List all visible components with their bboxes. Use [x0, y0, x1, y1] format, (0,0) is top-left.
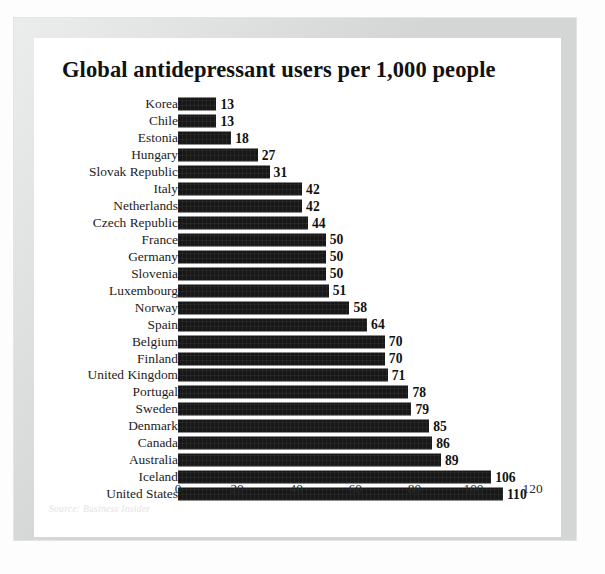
- category-label: Denmark: [128, 420, 178, 433]
- category-label: Korea: [145, 98, 178, 111]
- x-axis-tick: 120: [523, 481, 543, 497]
- chart-row: Estonia18: [34, 130, 561, 147]
- page-title: Global antidepressant users per 1,000 pe…: [62, 57, 496, 83]
- bar-value-label: 42: [306, 182, 320, 196]
- bar-value-label: 50: [330, 233, 344, 247]
- bar-value-label: 78: [412, 386, 426, 400]
- bar-track: 31: [178, 166, 561, 179]
- x-axis-tick: 0: [175, 481, 182, 497]
- chart-card: Global antidepressant users per 1,000 pe…: [34, 38, 561, 537]
- category-label: United States: [106, 487, 178, 500]
- chart-row: Korea13: [34, 96, 561, 113]
- bar-value-label: 58: [353, 301, 367, 315]
- category-label: Czech Republic: [93, 216, 178, 229]
- bar[interactable]: [178, 149, 258, 162]
- bar[interactable]: [178, 200, 302, 213]
- bar-value-label: 64: [371, 318, 385, 332]
- bar[interactable]: [178, 420, 429, 433]
- bar[interactable]: [178, 183, 302, 196]
- x-axis-tick: 60: [349, 481, 362, 497]
- category-label: United Kingdom: [88, 369, 178, 382]
- bar[interactable]: [178, 250, 326, 263]
- bar-value-label: 85: [433, 419, 447, 433]
- bar[interactable]: [178, 301, 349, 314]
- bar-track: 44: [178, 217, 561, 230]
- category-label: Italy: [153, 182, 178, 195]
- bar[interactable]: [178, 98, 216, 111]
- x-axis: 020406080100120: [178, 481, 561, 503]
- bar[interactable]: [178, 115, 216, 128]
- bar-track: 70: [178, 335, 561, 348]
- bar-track: 71: [178, 369, 561, 382]
- bar[interactable]: [178, 217, 308, 230]
- chart-row: Chile13: [34, 113, 561, 130]
- bar[interactable]: [178, 284, 329, 297]
- category-label: Spain: [147, 318, 178, 331]
- category-label: Canada: [138, 437, 178, 450]
- category-label: Slovenia: [131, 267, 178, 280]
- bar[interactable]: [178, 132, 231, 145]
- chart-row: Canada86: [34, 435, 561, 452]
- category-label: Norway: [135, 301, 178, 314]
- chart-row: Belgium70: [34, 333, 561, 350]
- bar-value-label: 27: [262, 148, 276, 162]
- category-label: Germany: [128, 250, 178, 263]
- category-label: Hungary: [131, 149, 178, 162]
- category-label: Sweden: [136, 403, 178, 416]
- bar-track: 50: [178, 233, 561, 246]
- bar-value-label: 18: [235, 132, 249, 146]
- chart-row: Spain64: [34, 316, 561, 333]
- bar-track: 13: [178, 98, 561, 111]
- source-note: Source: Business Insider: [49, 504, 150, 514]
- category-label: Chile: [149, 115, 178, 128]
- chart-row: Slovenia50: [34, 265, 561, 282]
- bar-track: 70: [178, 352, 561, 365]
- x-axis-tick: 20: [230, 481, 243, 497]
- bar-track: 18: [178, 132, 561, 145]
- category-label: Belgium: [132, 335, 178, 348]
- bar-value-label: 89: [445, 453, 459, 467]
- category-label: Estonia: [138, 132, 178, 145]
- x-axis-tick: 100: [463, 481, 483, 497]
- bar[interactable]: [178, 369, 388, 382]
- chart-row: Denmark85: [34, 418, 561, 435]
- bar[interactable]: [178, 267, 326, 280]
- chart-row: Hungary27: [34, 147, 561, 164]
- bar[interactable]: [178, 318, 367, 331]
- bar[interactable]: [178, 437, 432, 450]
- bar-track: 42: [178, 183, 561, 196]
- bar[interactable]: [178, 352, 385, 365]
- bar-value-label: 70: [389, 335, 403, 349]
- bar[interactable]: [178, 166, 270, 179]
- bar-value-label: 31: [274, 165, 288, 179]
- bar-value-label: 44: [312, 216, 326, 230]
- bar-value-label: 13: [220, 98, 234, 112]
- bar-track: 64: [178, 318, 561, 331]
- bar[interactable]: [178, 233, 326, 246]
- bar[interactable]: [178, 386, 408, 399]
- bar-track: 27: [178, 149, 561, 162]
- bar-value-label: 42: [306, 199, 320, 213]
- chart-row: Finland70: [34, 350, 561, 367]
- chart-row: Luxembourg51: [34, 282, 561, 299]
- x-axis-tick: 80: [408, 481, 421, 497]
- bar[interactable]: [178, 403, 411, 416]
- bar-value-label: 79: [415, 403, 429, 417]
- bar-value-label: 50: [330, 267, 344, 281]
- category-label: Finland: [137, 352, 178, 365]
- category-label: Australia: [129, 453, 178, 466]
- chart-row: United Kingdom71: [34, 367, 561, 384]
- chart-row: France50: [34, 232, 561, 249]
- bar-track: 89: [178, 454, 561, 467]
- category-label: Portugal: [133, 386, 178, 399]
- bar[interactable]: [178, 335, 385, 348]
- bar[interactable]: [178, 454, 441, 467]
- chart-row: Slovak Republic31: [34, 164, 561, 181]
- chart-row: Czech Republic44: [34, 215, 561, 232]
- category-label: Slovak Republic: [89, 166, 178, 179]
- bar-chart-plot-area: Korea13Chile13Estonia18Hungary27Slovak R…: [34, 96, 561, 476]
- bar-value-label: 86: [436, 436, 450, 450]
- x-axis-tick: 40: [289, 481, 302, 497]
- chart-row: Australia89: [34, 452, 561, 469]
- bar-track: 79: [178, 403, 561, 416]
